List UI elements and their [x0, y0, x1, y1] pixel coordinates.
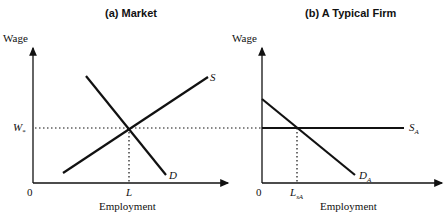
firm-y-axis-label: Wage: [232, 32, 257, 44]
market-employment-label: L: [126, 186, 132, 198]
market-title: (a) Market: [105, 7, 157, 19]
firm-supply-label: SA: [409, 121, 419, 136]
firm-title: (b) A Typical Firm: [305, 7, 396, 19]
market-x-axis-label: Employment: [99, 200, 156, 212]
firm-demand-curve: [262, 99, 355, 175]
firm-x-axis-label: Employment: [320, 200, 377, 212]
market-demand-curve: [86, 76, 166, 175]
firm-employment-label: LsA: [290, 186, 303, 201]
market-supply-label: S: [210, 71, 216, 83]
market-origin-label: 0: [27, 186, 33, 198]
firm-demand-label: DA: [359, 169, 371, 184]
firm-origin-label: 0: [256, 186, 262, 198]
diagram-canvas: [0, 0, 446, 214]
wage-label: W*: [13, 121, 26, 136]
market-y-axis-label: Wage: [3, 32, 28, 44]
market-demand-label: D: [169, 169, 177, 181]
market-supply-curve: [63, 77, 208, 173]
